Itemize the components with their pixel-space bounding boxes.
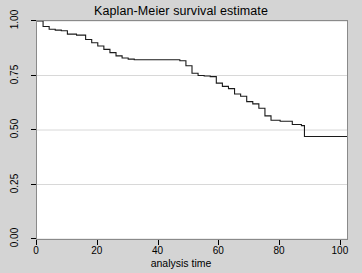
x-tick-label: 20: [77, 245, 117, 256]
y-tick-mark: [31, 20, 36, 21]
kaplan-meier-figure: Kaplan-Meier survival estimate 0.000.250…: [0, 0, 362, 273]
y-tick-label: 1.00: [9, 5, 20, 35]
y-tick-label: 0.25: [9, 168, 20, 198]
y-tick-mark: [31, 75, 36, 76]
x-tick-mark: [218, 240, 219, 245]
x-tick-label: 0: [16, 245, 56, 256]
x-tick-mark: [36, 240, 37, 245]
plot-area: [36, 20, 348, 240]
survival-step-curve: [37, 21, 347, 137]
y-tick-mark: [31, 238, 36, 239]
y-tick-mark: [31, 184, 36, 185]
x-tick-mark: [97, 240, 98, 245]
survival-curve-svg: [37, 21, 347, 239]
y-tick-label: 0.75: [9, 59, 20, 89]
x-tick-label: 80: [259, 245, 299, 256]
chart-title: Kaplan-Meier survival estimate: [0, 4, 362, 18]
x-tick-mark: [158, 240, 159, 245]
x-tick-mark: [279, 240, 280, 245]
y-tick-mark: [31, 129, 36, 130]
x-tick-label: 40: [138, 245, 178, 256]
gridlines: [37, 21, 347, 239]
x-tick-label: 100: [320, 245, 360, 256]
x-axis-label: analysis time: [0, 257, 362, 269]
x-tick-label: 60: [198, 245, 238, 256]
x-tick-mark: [340, 240, 341, 245]
y-tick-label: 0.50: [9, 114, 20, 144]
